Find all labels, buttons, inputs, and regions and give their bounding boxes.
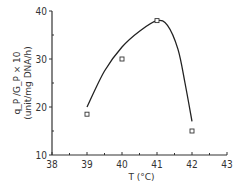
x-tick-label: 43: [221, 159, 232, 170]
svg-text:(unit/mg DNA/h): (unit/mg DNA/h): [23, 46, 33, 119]
x-tick-label: 39: [81, 159, 93, 170]
data-point-square: [190, 129, 194, 133]
chart: 10203040383940414243 T (°C)q_P /G_P × 10…: [0, 0, 237, 188]
svg-text:q_P /G_P × 10: q_P /G_P × 10: [12, 51, 22, 114]
y-tick-label: 20: [36, 102, 48, 113]
x-axis-label: T (°C): [127, 172, 154, 182]
x-tick-label: 40: [116, 159, 128, 170]
y-tick-label: 30: [36, 54, 48, 65]
data-point-square: [155, 19, 159, 23]
fitted-curve: [87, 20, 192, 121]
data-point-square: [85, 112, 89, 116]
x-tick-label: 41: [151, 159, 162, 170]
axes: 10203040383940414243: [36, 6, 233, 170]
x-tick-label: 38: [46, 159, 58, 170]
x-tick-label: 42: [186, 159, 197, 170]
y-tick-label: 40: [36, 6, 48, 17]
data-point-square: [120, 57, 124, 61]
y-axis-label: q_P /G_P × 10(unit/mg DNA/h): [12, 46, 33, 119]
